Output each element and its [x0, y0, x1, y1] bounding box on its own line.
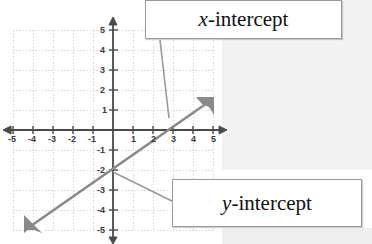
y-intercept-callout-text: -intercept: [231, 191, 311, 216]
x-tick-label-5: 5: [211, 135, 216, 144]
y-tick-label-5: 5: [100, 26, 105, 35]
y-intercept-callout: y-intercept: [172, 179, 362, 227]
y-intercept-pointer: [113, 172, 176, 203]
x-tick-label-4: 4: [191, 135, 196, 144]
x-intercept-callout: x-intercept: [145, 0, 342, 39]
x-tick-label-1: 1: [131, 135, 136, 144]
x-axis-arrow-left: [3, 126, 11, 134]
y-tick-label--2: -2: [97, 166, 105, 175]
x-tick-label-2: 2: [151, 135, 156, 144]
y-tick-label-1: 1: [102, 106, 107, 115]
graph-figure: -5 -4 -3 -2 -1 1 2 3 4 5 5 4 3 2 1 -1 -2…: [0, 0, 372, 244]
x-intercept-pointer: [160, 40, 169, 118]
y-tick-label--1: -1: [97, 146, 105, 155]
y-tick-label-2: 2: [100, 86, 105, 95]
callout-pointers: [113, 40, 176, 203]
y-axis-arrow-up: [109, 17, 117, 25]
y-axis-arrow-down: [109, 237, 117, 244]
x-tick-label--4: -4: [28, 135, 36, 144]
y-tick-label--5: -5: [97, 226, 105, 235]
x-tick-label-3: 3: [171, 135, 176, 144]
x-intercept-callout-text: -intercept: [208, 7, 288, 32]
y-tick-label-3: 3: [100, 66, 105, 75]
y-tick-label-4: 4: [100, 46, 105, 55]
x-tick-label--5: -5: [8, 135, 16, 144]
y-tick-label--3: -3: [97, 186, 105, 195]
x-tick-label--3: -3: [48, 135, 56, 144]
x-axis-arrow-right: [219, 126, 227, 134]
y-tick-label--4: -4: [97, 206, 105, 215]
x-tick-label--1: -1: [88, 135, 96, 144]
y-intercept-callout-variable: y: [222, 191, 231, 216]
x-tick-label--2: -2: [68, 135, 76, 144]
x-intercept-callout-variable: x: [199, 7, 208, 32]
